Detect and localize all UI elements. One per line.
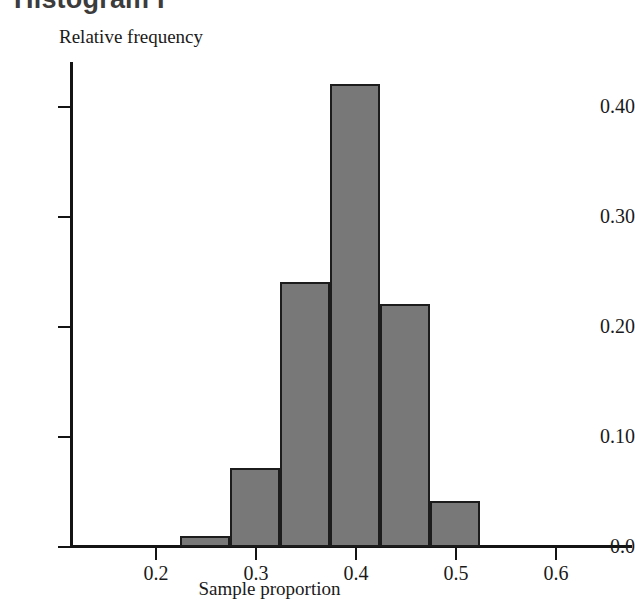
- histogram-bar: [230, 468, 280, 547]
- y-tick-label-040: 0.40: [579, 96, 635, 116]
- histogram-bar: [330, 84, 380, 547]
- y-tick-label-020: 0.20: [579, 316, 635, 336]
- y-tick-mark-000: [58, 546, 71, 548]
- x-tick-mark-04: [355, 548, 357, 560]
- y-tick-mark-030: [58, 216, 71, 218]
- plot-area: 0.40 0.30 0.20 0.10 0.0 0.2 0.3 0.4 0.5 …: [0, 0, 635, 607]
- x-tick-mark-06: [555, 548, 557, 560]
- histogram-bar: [430, 501, 480, 547]
- y-tick-mark-020: [58, 326, 71, 328]
- x-axis-title: Sample proportion: [0, 578, 635, 600]
- x-axis-title-text: Sample proportion: [199, 578, 341, 599]
- y-axis-line: [70, 62, 73, 548]
- histogram-bar: [280, 282, 330, 547]
- x-tick-mark-02: [155, 548, 157, 560]
- x-tick-mark-03: [255, 548, 257, 560]
- y-tick-label-010: 0.10: [579, 426, 635, 446]
- y-tick-label-000: 0.0: [579, 536, 635, 556]
- histogram-chart: Histogram I Relative frequency 0.40 0.30…: [0, 0, 635, 607]
- histogram-bar: [180, 536, 230, 547]
- y-tick-label-030: 0.30: [579, 206, 635, 226]
- y-tick-mark-010: [58, 436, 71, 438]
- y-tick-mark-040: [58, 106, 71, 108]
- histogram-bar: [380, 304, 430, 547]
- x-tick-mark-05: [455, 548, 457, 560]
